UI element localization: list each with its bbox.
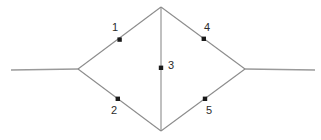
right-lead-line xyxy=(245,69,315,70)
node-label-2: 2 xyxy=(111,104,117,116)
left-lead-line xyxy=(11,69,78,70)
network-diagram: 1 2 3 4 5 xyxy=(0,0,321,140)
node-marker-3[interactable] xyxy=(159,66,163,70)
node-label-3: 3 xyxy=(168,59,174,71)
node-label-4: 4 xyxy=(204,21,210,33)
node-marker-4[interactable] xyxy=(202,37,206,41)
node-label-1: 1 xyxy=(112,21,118,33)
node-marker-5[interactable] xyxy=(203,97,207,101)
node-label-5: 5 xyxy=(206,104,212,116)
diagram-canvas: 1 2 3 4 5 xyxy=(0,0,321,140)
node-marker-2[interactable] xyxy=(116,97,120,101)
node-marker-1[interactable] xyxy=(117,37,121,41)
